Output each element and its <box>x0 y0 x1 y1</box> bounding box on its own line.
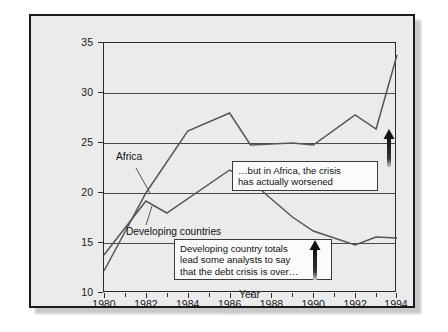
africa-callout-arrow-icon <box>383 129 395 167</box>
africa-leader-line <box>136 168 150 193</box>
developing-callout-line3: that the debt crisis is over… <box>180 266 326 277</box>
series-label-developing-countries: Developing countries <box>126 226 221 237</box>
plot-area: 1980 1982 1984 1986 1988 1990 1992 1994 … <box>103 42 396 292</box>
x-axis-title: Year <box>103 288 396 300</box>
y-axis-title-wrap: Debt service as percentage of exports <box>39 20 55 300</box>
y-tick-label-30: 30 <box>69 87 93 97</box>
y-tick-label-25: 25 <box>69 137 93 147</box>
developing-leader-line <box>146 206 152 225</box>
y-tick-label-20: 20 <box>69 187 93 197</box>
africa-callout-box: …but in Africa, the crisis has actually … <box>232 161 378 191</box>
y-axis-title: Debt service as percentage of exports <box>33 0 49 36</box>
africa-callout-line2: has actually worsened <box>238 176 372 187</box>
series-label-africa: Africa <box>116 151 142 162</box>
chart-figure-panel: Debt service as percentage of exports 35… <box>29 14 415 308</box>
developing-callout-line1: Developing country totals <box>180 243 326 254</box>
y-tick-label-10: 10 <box>69 287 93 297</box>
y-tick-label-15: 15 <box>69 237 93 247</box>
developing-callout-arrow-icon <box>309 240 321 280</box>
developing-callout-line2: lead some analysts to say <box>180 254 326 265</box>
africa-callout-line1: …but in Africa, the crisis <box>238 165 372 176</box>
y-tick-label-35: 35 <box>69 37 93 47</box>
